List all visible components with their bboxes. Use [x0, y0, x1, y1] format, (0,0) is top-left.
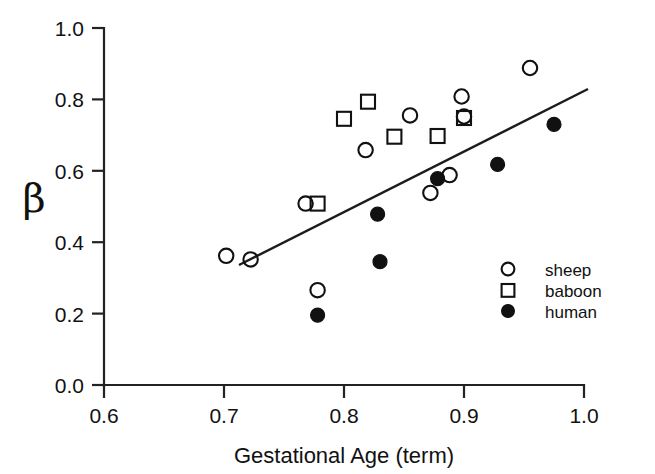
- legend-entry-human: human: [502, 303, 597, 322]
- data-point-baboon: [431, 129, 445, 143]
- legend: sheep baboon human: [502, 261, 602, 322]
- data-point-sheep: [423, 186, 437, 200]
- legend-entry-sheep: sheep: [502, 261, 592, 280]
- plot-svg: 1.0 0.8 0.6 0.4 0.2 0.0 0.6 0.7 0.8 0.9 …: [0, 0, 655, 474]
- x-tick-label-1.0: 1.0: [569, 404, 598, 427]
- series-baboon-markers: [311, 95, 471, 211]
- y-tick-label-0.4: 0.4: [55, 231, 85, 254]
- data-point-human: [373, 255, 387, 269]
- open-square-icon: [502, 284, 515, 297]
- y-tick-label-0.0: 0.0: [55, 374, 84, 397]
- open-circle-icon: [502, 263, 515, 276]
- data-point-human: [431, 172, 445, 186]
- series-human-markers: [311, 117, 561, 322]
- x-axis-title: Gestational Age (term): [234, 443, 454, 468]
- y-tick-label-0.6: 0.6: [55, 160, 84, 183]
- data-point-sheep: [403, 108, 417, 122]
- y-tick-label-0.2: 0.2: [55, 303, 84, 326]
- y-tick-label-1.0: 1.0: [55, 17, 84, 40]
- legend-label-sheep: sheep: [545, 261, 591, 280]
- legend-label-baboon: baboon: [545, 282, 602, 301]
- legend-entry-baboon: baboon: [502, 282, 602, 301]
- data-point-baboon: [361, 95, 375, 109]
- data-point-sheep: [219, 249, 233, 263]
- x-axis: 0.6 0.7 0.8 0.9 1.0: [89, 385, 598, 427]
- x-tick-label-0.6: 0.6: [89, 404, 118, 427]
- data-point-human: [547, 117, 561, 131]
- data-point-sheep: [358, 143, 372, 157]
- y-tick-label-0.8: 0.8: [55, 88, 84, 111]
- y-axis: 1.0 0.8 0.6 0.4 0.2 0.0: [55, 17, 104, 397]
- y-axis-title: β: [22, 175, 45, 221]
- data-point-sheep: [523, 61, 537, 75]
- scatter-plot-figure: 1.0 0.8 0.6 0.4 0.2 0.0 0.6 0.7 0.8 0.9 …: [0, 0, 655, 474]
- data-point-baboon: [337, 112, 351, 126]
- data-point-sheep: [454, 89, 468, 103]
- trend-line: [239, 89, 588, 265]
- x-tick-label-0.7: 0.7: [209, 404, 238, 427]
- legend-label-human: human: [545, 303, 597, 322]
- filled-circle-icon: [502, 305, 515, 318]
- data-point-human: [371, 207, 385, 221]
- data-point-human: [491, 157, 505, 171]
- data-point-human: [311, 308, 325, 322]
- x-tick-label-0.8: 0.8: [329, 404, 358, 427]
- data-point-sheep: [310, 283, 324, 297]
- data-point-baboon: [387, 130, 401, 144]
- x-tick-label-0.9: 0.9: [449, 404, 478, 427]
